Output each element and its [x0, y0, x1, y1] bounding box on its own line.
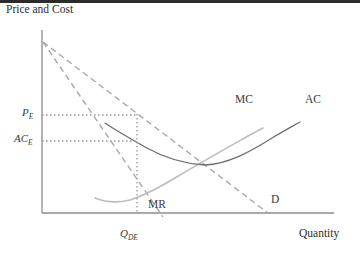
- page-title: Price and Cost: [6, 4, 73, 16]
- average-cost-curve: [105, 122, 300, 165]
- demand-curve-label: D: [271, 194, 279, 206]
- average-cost-equilibrium-tick-label: ACE: [14, 133, 33, 147]
- x-axis-label: Quantity: [299, 228, 339, 240]
- qde-subscript: DE: [128, 233, 138, 242]
- marginal-revenue-curve-label: MR: [148, 199, 166, 211]
- price-equilibrium-tick-label: PE: [22, 107, 33, 121]
- figure-root: Price and Cost Quantity MC AC D MR PE AC…: [0, 0, 360, 256]
- marginal-cost-curve-label: MC: [235, 94, 253, 106]
- ace-subscript: E: [28, 138, 33, 147]
- quantity-equilibrium-tick-label: QDE: [120, 228, 138, 242]
- chart-canvas: [0, 0, 360, 256]
- demand-curve: [43, 42, 268, 213]
- pe-base: P: [22, 106, 29, 118]
- pe-subscript: E: [29, 112, 34, 121]
- axis-group: [42, 30, 334, 213]
- marginal-revenue-curve: [43, 42, 163, 217]
- guide-lines-group: [42, 114, 138, 213]
- average-cost-curve-label: AC: [305, 94, 321, 106]
- ace-base: AC: [14, 132, 28, 144]
- qde-base: Q: [120, 227, 128, 239]
